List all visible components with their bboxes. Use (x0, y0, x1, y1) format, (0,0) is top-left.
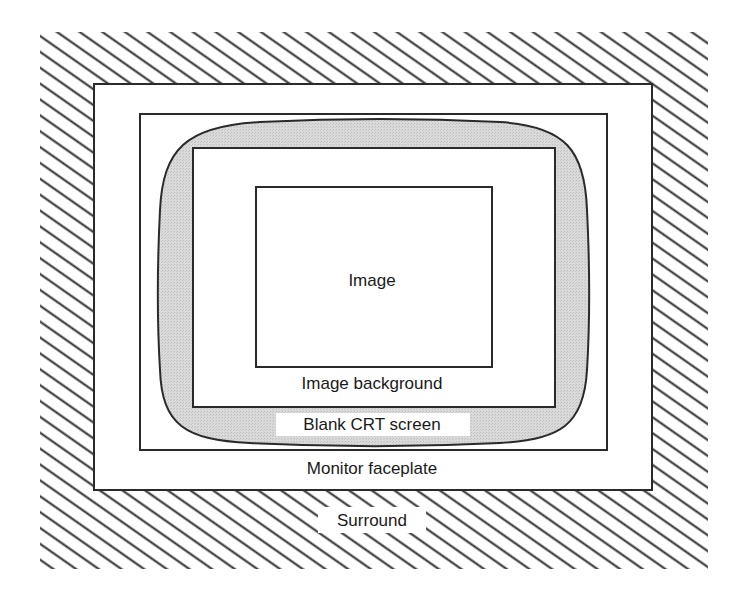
surround-label: Surround (337, 511, 407, 530)
monitor-faceplate-label: Monitor faceplate (307, 459, 437, 478)
viewing-environment-diagram: Image Image background Blank CRT screen … (0, 0, 742, 604)
image-background-label: Image background (302, 374, 443, 393)
blank-crt-screen-label: Blank CRT screen (303, 415, 440, 434)
image-label: Image (348, 271, 395, 290)
